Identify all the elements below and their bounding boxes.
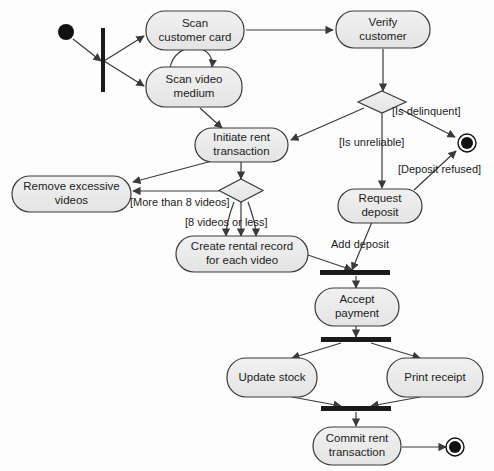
- node-fork-finish-hit[interactable]: [321, 335, 391, 344]
- node-join-finish-hit[interactable]: [321, 404, 391, 413]
- node-remove-excessive-videos[interactable]: [12, 176, 131, 212]
- edge-fork-to-print-receipt: [371, 343, 420, 358]
- node-request-deposit[interactable]: [338, 189, 422, 223]
- node-scan-video-medium[interactable]: [146, 67, 242, 107]
- node-print-receipt[interactable]: [387, 358, 483, 397]
- node-end-delinquent[interactable]: [457, 133, 477, 153]
- edge-label-more-than-8-videos: [More than 8 videos]: [130, 196, 230, 208]
- node-initiate-rent[interactable]: [195, 128, 288, 162]
- edge-fork-to-update-stock: [292, 343, 341, 358]
- node-end-complete[interactable]: [445, 437, 465, 457]
- node-update-stock[interactable]: [227, 358, 317, 397]
- node-verify-customer[interactable]: [336, 11, 430, 48]
- node-customer-decision[interactable]: [358, 91, 406, 113]
- node-start-hit[interactable]: [58, 24, 75, 41]
- edge-label-deposit-refused: [Deposit refused]: [398, 163, 481, 175]
- node-accept-payment[interactable]: [315, 288, 399, 326]
- node-create-rental-record[interactable]: [176, 236, 308, 272]
- edge-scan-video-self-loop: [170, 48, 212, 68]
- edge-start-to-fork: [73, 39, 101, 61]
- edge-scan-video-to-initiate: [200, 108, 222, 128]
- edge-fork-to-scan-card: [104, 36, 144, 61]
- node-commit-rent-transaction[interactable]: [313, 427, 401, 465]
- node-join-deposit-hit[interactable]: [320, 268, 390, 277]
- edge-label-8-videos-or-less: [8 videos or less]: [185, 216, 268, 228]
- node-scan-customer-card[interactable]: [146, 11, 244, 50]
- node-video-count-decision[interactable]: [219, 179, 263, 202]
- edge-initiate-to-remove: [133, 161, 212, 182]
- node-fork-initial-hit[interactable]: [99, 28, 107, 92]
- activity-diagram-canvas: Scan customer card Scan video medium Ver…: [0, 0, 494, 471]
- edge-label-is-unreliable: [Is unreliable]: [339, 136, 404, 148]
- edge-label-add-deposit: Add deposit: [331, 238, 389, 250]
- edge-fork-to-scan-video: [104, 61, 144, 86]
